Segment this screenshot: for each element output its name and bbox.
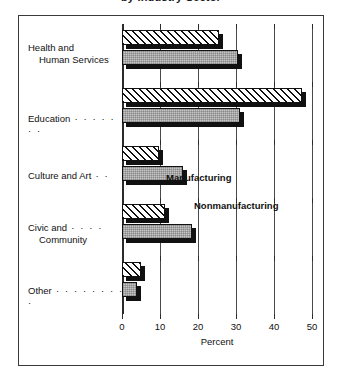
category-label-civic-and-community: Civic and · · · · Community xyxy=(28,222,124,245)
x-tick-label-20: 20 xyxy=(186,321,210,332)
category-label-health-and-human-services: Health and Human Services xyxy=(28,42,124,65)
bar-manufacturing[interactable] xyxy=(122,262,141,277)
category-label-line1: Culture and Art xyxy=(28,170,91,181)
bar-nonmanufacturing[interactable] xyxy=(122,224,192,239)
category-label-line1: Education xyxy=(28,113,70,124)
category-label-line2: Human Services xyxy=(28,54,124,66)
bar-manufacturing[interactable] xyxy=(122,88,302,103)
category-label-other: Other · · · · · · · · · xyxy=(28,285,124,308)
bar-manufacturing[interactable] xyxy=(122,146,159,161)
x-axis-ticks xyxy=(122,314,312,320)
x-tick-label-30: 30 xyxy=(224,321,248,332)
category-label-culture-and-art: Culture and Art · · xyxy=(28,170,124,182)
x-tick-label-40: 40 xyxy=(262,321,286,332)
x-axis-label: Percent xyxy=(122,336,312,347)
x-axis-tick-labels: 01020304050 xyxy=(122,321,312,333)
legend-label-nonmanufacturing: Nonmanufacturing xyxy=(194,200,278,211)
x-tick-label-0: 0 xyxy=(110,321,134,332)
category-label-line1: Civic and xyxy=(28,222,67,233)
category-leader-dots: · · xyxy=(91,170,109,181)
bar-nonmanufacturing[interactable] xyxy=(122,282,137,297)
gridline-40 xyxy=(274,24,275,314)
category-label-line1: Other xyxy=(28,285,52,296)
category-label-education: Education · · · · · · · xyxy=(28,113,124,136)
bar-manufacturing[interactable] xyxy=(122,30,219,45)
chart-title: by Industry Sector xyxy=(0,0,342,3)
bar-manufacturing[interactable] xyxy=(122,204,165,219)
category-label-line2: Community xyxy=(28,234,124,246)
legend-label-manufacturing: Manufacturing xyxy=(166,172,231,183)
x-tick-label-50: 50 xyxy=(300,321,324,332)
gridline-50 xyxy=(312,24,313,314)
category-leader-dots: · · · · xyxy=(67,222,103,233)
bar-nonmanufacturing[interactable] xyxy=(122,108,240,123)
plot-area: Manufacturing Nonmanufacturing xyxy=(122,24,312,314)
bar-nonmanufacturing[interactable] xyxy=(122,50,238,65)
x-tick-label-10: 10 xyxy=(148,321,172,332)
category-label-line1: Health and xyxy=(28,42,74,53)
